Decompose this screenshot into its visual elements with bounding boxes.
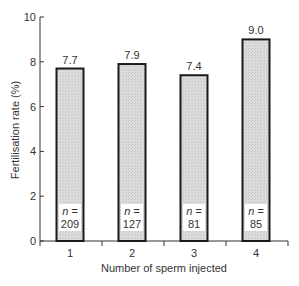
y-tick-label: 8 bbox=[30, 56, 36, 68]
x-category-label: 3 bbox=[191, 247, 197, 259]
n-value: 127 bbox=[123, 218, 141, 230]
bar-value-label: 7.4 bbox=[186, 60, 201, 72]
y-tick-label: 2 bbox=[30, 190, 36, 202]
bars: 7.7n =20917.9n =12727.4n =8139.0n =854 bbox=[57, 24, 270, 259]
y-axis-title: Fertilisation rate (%) bbox=[9, 81, 21, 179]
bar-group: 7.9n =1272 bbox=[119, 49, 146, 259]
n-prefix: n = bbox=[186, 205, 202, 217]
y-tick-label: 0 bbox=[30, 235, 36, 247]
x-category-label: 1 bbox=[67, 247, 73, 259]
n-prefix: n = bbox=[124, 205, 140, 217]
bar-value-label: 7.7 bbox=[62, 54, 77, 66]
y-tick-label: 6 bbox=[30, 101, 36, 113]
bar-value-label: 9.0 bbox=[248, 24, 263, 36]
y-tick-label: 10 bbox=[24, 11, 36, 23]
bar-group: 7.4n =813 bbox=[181, 60, 208, 259]
n-value: 209 bbox=[61, 218, 79, 230]
y-tick-label: 4 bbox=[30, 145, 36, 157]
n-prefix: n = bbox=[248, 205, 264, 217]
n-value: 85 bbox=[250, 218, 262, 230]
x-category-label: 4 bbox=[253, 247, 259, 259]
bar-group: 9.0n =854 bbox=[243, 24, 270, 259]
n-value: 81 bbox=[188, 218, 200, 230]
bar-chart: 0246810 7.7n =20917.9n =12727.4n =8139.0… bbox=[0, 0, 299, 286]
bar-value-label: 7.9 bbox=[124, 49, 139, 61]
y-axis: 0246810 bbox=[24, 11, 44, 247]
x-category-label: 2 bbox=[129, 247, 135, 259]
bar-group: 7.7n =2091 bbox=[57, 54, 84, 259]
n-prefix: n = bbox=[62, 205, 78, 217]
x-axis-title: Number of sperm injected bbox=[101, 262, 227, 274]
